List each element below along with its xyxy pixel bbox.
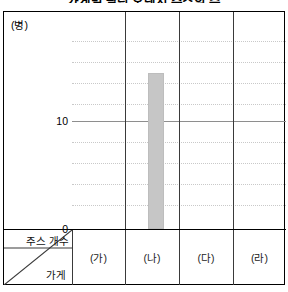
category-label-da: (다) — [179, 230, 233, 285]
y-tick-label-10: 10 — [40, 116, 68, 126]
column-divider-2 — [179, 12, 180, 230]
category-label-na: (나) — [125, 230, 179, 285]
y-axis-unit-label: (병) — [11, 17, 28, 32]
column-divider-3 — [233, 12, 234, 230]
category-label-ra: (라) — [233, 230, 286, 285]
worksheet-bar-graph: 가게별 팔린 오렌지 주스의 수 (병) — [0, 0, 288, 292]
category-label-ga: (가) — [72, 230, 125, 285]
column-divider-1 — [125, 12, 126, 230]
corner-header-cell: 주스 개수 가게 — [4, 230, 72, 285]
chart-frame: (병) 10 0 — [3, 11, 285, 285]
category-header-row: 주스 개수 가게 (가) (나) (다) (라) — [4, 229, 286, 284]
plot-area — [72, 12, 286, 230]
bar-na — [148, 73, 164, 229]
corner-label-category: 가게 — [46, 267, 66, 282]
corner-label-measure: 주스 개수 — [26, 233, 69, 248]
chart-title: 가게별 팔린 오렌지 주스의 수 — [0, 0, 288, 3]
